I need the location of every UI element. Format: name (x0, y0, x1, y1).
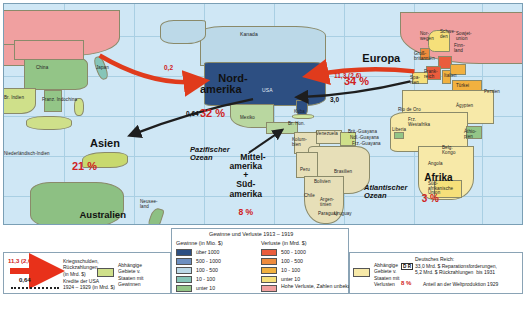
legend-gain-swatch-4 (176, 285, 192, 292)
legend-share-text: Anteil an der Weltproduktion 1929 (423, 281, 498, 287)
legend-gain-swatch-3 (176, 276, 192, 283)
region-name-australien: Australien (79, 209, 125, 220)
region-label-nordamerika: Nord- amerika 32 % (200, 61, 248, 143)
legend-loss-label-2: 10 - 100 (281, 268, 300, 274)
legend-loss-swatch-3 (261, 276, 277, 283)
legend: 11,3 (2,6) Kriegsschulden, Rückzahlungen… (3, 228, 523, 309)
legend-credit-dash (11, 287, 59, 289)
legend-reich-badge: D R (401, 263, 413, 270)
legend-gain-label-0: über 1000 (196, 250, 219, 256)
legend-loss-label-4: Hohe Verluste, Zahlen unbekannt (281, 284, 358, 290)
legend-credit-value: 0,64 (19, 277, 31, 283)
legend-loss-swatch-2 (261, 267, 277, 274)
legend-reich-title: Deutsches Reich: (415, 256, 454, 262)
legend-loss-label-0: 500 - 1000 (281, 250, 306, 256)
legend-loss-swatch-4 (261, 285, 277, 292)
legend-loss-swatch-1 (261, 258, 277, 265)
ocean-label-pazifischer: Pazifischer Ozean (190, 146, 230, 162)
legend-share-value: 8 % (401, 280, 411, 286)
region-pct-asien: 21 % (72, 161, 120, 173)
region-pct-mittel-suedamerika: 8 % (226, 208, 266, 217)
ocean-label-atlantischer: Atlantischer Ozean (364, 184, 407, 200)
legend-dependent-losses-text: Abhängige Gebiete v. Staaten mit Verlust… (374, 262, 399, 287)
region-name-europa: Europa (362, 52, 400, 64)
legend-war-debt-text: Kriegsschulden, Rückzahlungen (in Mrd. $… (63, 258, 99, 277)
legend-dependent-losses-swatch (353, 268, 370, 277)
legend-loss-swatch-0 (261, 249, 277, 256)
legend-loss-label-1: 100 - 500 (281, 259, 303, 265)
arrow-asia-to-na (100, 56, 202, 83)
flow-label-0-2: 0,2 (164, 64, 173, 71)
region-name-afrika: Afrika (424, 172, 452, 183)
region-label-mittel-suedamerika: Mittel- amerika + Süd- amerika 8 % (226, 144, 266, 225)
region-name-nordamerika: Nord- amerika (200, 72, 248, 96)
flow-label-0-64: 0,64 (186, 110, 199, 117)
legend-gain-swatch-1 (176, 258, 192, 265)
legend-gain-label-1: 500 - 1000 (196, 259, 221, 265)
region-label-afrika: Afrika 3 % (408, 162, 453, 225)
legend-gain-label-3: 10 - 100 (196, 277, 215, 283)
legend-gains-header: Gewinne (in Mio. $) (176, 240, 223, 246)
region-label-asien: Asien 21 % (72, 126, 120, 196)
region-name-mittel-suedamerika: Mittel- amerika + Süd- amerika (230, 152, 266, 198)
region-name-asien: Asien (90, 137, 120, 149)
legend-losses-header: Verluste (in Mrd. $) (261, 240, 307, 246)
legend-credit-text: Kredite der USA 1924 – 1929 (in Mrd. $) (63, 278, 115, 291)
legend-gain-label-4: unter 10 (196, 286, 215, 292)
region-label-australien: Australien 2 % (64, 200, 126, 225)
legend-title: Gewinne und Verluste 1913 – 1919 (209, 231, 293, 237)
legend-dependent-gains-swatch (97, 268, 114, 277)
legend-gain-label-2: 100 - 500 (196, 268, 218, 274)
flow-label-3-0: 3,0 (330, 96, 339, 103)
legend-gain-swatch-0 (176, 249, 192, 256)
legend-reich-text: 33,0 Mrd. $ Reparationsforderungen, 5,2 … (415, 263, 497, 276)
legend-dependent-gains-text: Abhängige Gebiete v. Staaten mit Gewinne… (118, 262, 143, 287)
flow-label-11-3: 11,3 (2,6) (334, 72, 361, 79)
world-map: Nord- amerika 32 % Europa 34 % Asien 21 … (3, 3, 523, 225)
region-pct-nordamerika: 32 % (200, 108, 248, 120)
region-pct-afrika: 3 % (408, 194, 453, 205)
legend-gain-swatch-2 (176, 267, 192, 274)
map-figure: Nord- amerika 32 % Europa 34 % Asien 21 … (0, 0, 526, 312)
